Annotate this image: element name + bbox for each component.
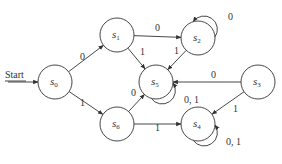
state-s5: s5 <box>139 65 173 99</box>
edge-label-s3-s4: 1 <box>233 103 238 114</box>
edge-label-s1-s5: 1 <box>140 46 145 57</box>
edge-label-s6-s5: 0 <box>131 87 136 98</box>
start-label: Start <box>5 69 24 80</box>
state-s3: s3 <box>241 65 275 99</box>
edge-s1-s2 <box>134 36 181 38</box>
edge-s0-s1 <box>69 45 104 71</box>
edge-label-s2-s2: 0 <box>228 11 233 22</box>
state-s6: s6 <box>100 107 134 141</box>
state-s1: s1 <box>100 18 134 52</box>
edge-label-s2-s5: 1 <box>174 45 179 56</box>
edge-label-s0-s1: 0 <box>80 51 85 62</box>
state-s2: s2 <box>181 21 215 55</box>
state-s0: s0 <box>38 65 72 99</box>
edge-label-s4-s4: 0, 1 <box>226 136 241 147</box>
edge-s0-s6 <box>69 92 103 115</box>
edge-label-s0-s6: 1 <box>80 97 85 108</box>
edge-label-s6-s4: 1 <box>155 122 160 133</box>
edge-label-s5-s5: 0, 1 <box>184 94 199 105</box>
edge-label-s3-s5: 0 <box>211 69 216 80</box>
state-s4: s4 <box>181 107 215 141</box>
edge-label-s1-s2: 0 <box>155 22 160 33</box>
state-diagram: s0s1s2s3s4s5s6 Start010101010, 1010, 1 <box>0 0 282 164</box>
edge-s3-s4 <box>212 92 244 115</box>
